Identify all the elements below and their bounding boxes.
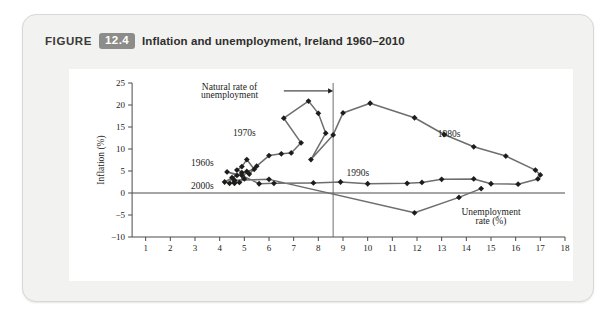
x-tick-label: 6 (267, 243, 272, 253)
plot-panel: −10−505101520251234567891011121314151617… (69, 69, 573, 281)
decade-label: 1960s (191, 158, 214, 168)
data-line (225, 101, 541, 213)
x-tick-label: 18 (561, 243, 571, 253)
data-point-marker (412, 115, 418, 121)
x-tick-label: 15 (487, 243, 497, 253)
y-tick-label: −5 (116, 210, 126, 220)
data-point-marker (340, 110, 346, 116)
data-point-marker (471, 176, 477, 182)
figure-title: Inflation and unemployment, Ireland 1960… (142, 35, 405, 47)
data-point-marker (256, 181, 262, 187)
data-point-marker (365, 181, 371, 187)
x-tick-label: 1 (143, 243, 148, 253)
data-point-marker (222, 179, 228, 185)
data-point-marker (439, 176, 445, 182)
x-tick-label: 8 (316, 243, 321, 253)
data-point-marker (412, 210, 418, 216)
y-axis-title: Inflation (%) (96, 135, 107, 184)
x-tick-label: 7 (291, 243, 296, 253)
y-tick-label: 25 (116, 78, 126, 88)
data-point-marker (488, 181, 494, 187)
natural-rate-arrow-head (328, 88, 333, 93)
figure-number-badge: 12.4 (99, 33, 135, 49)
figure-card: FIGURE 12.4 Inflation and unemployment, … (22, 14, 594, 302)
data-point-marker (515, 181, 521, 187)
x-axis-title-line2: rate (%) (476, 216, 507, 227)
x-tick-label: 16 (511, 243, 520, 253)
natural-rate-annotation: unemployment (201, 90, 258, 100)
decade-label: 1970s (233, 128, 256, 138)
data-point-marker (278, 151, 284, 157)
y-tick-label: 0 (121, 188, 126, 198)
x-tick-label: 10 (363, 243, 373, 253)
data-point-marker (478, 186, 484, 192)
data-point-marker (419, 180, 425, 186)
decade-label: 1980s (438, 129, 461, 139)
x-tick-label: 12 (413, 243, 422, 253)
figure-label: FIGURE (45, 35, 92, 47)
decade-label: 2000s (191, 181, 214, 191)
data-point-marker (323, 130, 329, 136)
y-tick-label: 20 (116, 100, 126, 110)
data-point-marker (311, 180, 317, 186)
x-tick-label: 5 (242, 243, 247, 253)
figure-header: FIGURE 12.4 Inflation and unemployment, … (45, 31, 405, 51)
data-point-marker (456, 195, 462, 201)
x-tick-label: 11 (388, 243, 397, 253)
y-tick-label: 15 (116, 122, 126, 132)
x-tick-label: 13 (437, 243, 447, 253)
x-tick-label: 2 (168, 243, 173, 253)
inflation-unemployment-chart: −10−505101520251234567891011121314151617… (69, 69, 573, 281)
data-point-marker (471, 144, 477, 150)
data-point-marker (367, 100, 373, 106)
x-tick-label: 14 (462, 243, 472, 253)
decade-label: 1990s (346, 168, 369, 178)
y-tick-label: 5 (121, 166, 126, 176)
data-point-marker (224, 169, 230, 175)
x-tick-label: 3 (193, 243, 198, 253)
y-tick-label: 10 (116, 144, 126, 154)
data-point-marker (503, 153, 509, 159)
y-tick-label: −10 (111, 232, 126, 242)
data-point-marker (404, 180, 410, 186)
chart-render-root: −10−505101520251234567891011121314151617… (96, 78, 570, 253)
data-point-marker (266, 176, 272, 182)
x-tick-label: 4 (217, 243, 222, 253)
figure-screenshot: FIGURE 12.4 Inflation and unemployment, … (0, 0, 616, 331)
x-tick-label: 9 (341, 243, 346, 253)
data-point-marker (338, 179, 344, 185)
x-tick-label: 17 (536, 243, 546, 253)
